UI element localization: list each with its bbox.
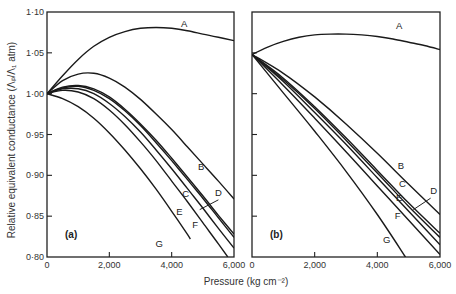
x-tick-label: 4,000	[160, 260, 183, 270]
conductance-chart: 02,0004,0006,0000·800·850·900·951·001·05…	[0, 0, 456, 294]
curve-a	[252, 34, 440, 55]
curve-label-e: E	[176, 206, 182, 217]
x-tick-label: 2,000	[303, 260, 326, 270]
curve-label-c: C	[182, 188, 189, 199]
y-tick-label: 0·85	[26, 211, 44, 221]
y-axis-title: Relative equivalent conductance (Λₚ/Λ₁ a…	[6, 42, 17, 238]
curve-label-c: C	[399, 178, 406, 189]
x-tick-label: 6,000	[429, 260, 452, 270]
panel-label-b: (b)	[270, 229, 283, 240]
curve-label-b: B	[198, 161, 204, 172]
x-axis-title: Pressure (kg cm⁻²)	[204, 276, 288, 287]
x-tick-label: 0	[44, 260, 49, 270]
panel-label-a: (a)	[65, 229, 77, 240]
curve-a	[47, 28, 234, 94]
plot-frame	[47, 12, 234, 257]
x-tick-label: 2,000	[98, 260, 121, 270]
x-tick-label: 6,000	[223, 260, 246, 270]
y-tick-label: 1·10	[26, 7, 44, 17]
curve-label-d: D	[215, 187, 222, 198]
curve-label-e: E	[396, 192, 402, 203]
panel-b-plot: 02,0004,0006,000ABCDEFG(b)	[249, 12, 451, 270]
curve-label-d: D	[430, 185, 437, 196]
y-tick-label: 1·00	[26, 89, 44, 99]
curve-d	[47, 86, 234, 237]
y-tick-label: 0·90	[26, 170, 44, 180]
panel-a-plot: 02,0004,0006,0000·800·850·900·951·001·05…	[26, 7, 245, 270]
x-tick-label: 4,000	[366, 260, 389, 270]
y-tick-label: 1·05	[26, 48, 44, 58]
curve-label-g: G	[156, 238, 163, 249]
d-leader-line	[200, 200, 219, 210]
curve-label-f: F	[395, 210, 401, 221]
curve-f	[252, 55, 440, 255]
curve-label-g: G	[383, 234, 390, 245]
plot-frame	[252, 12, 440, 257]
curve-label-b: B	[398, 160, 404, 171]
x-tick-label: 0	[249, 260, 254, 270]
curve-label-a: A	[181, 18, 188, 29]
curve-g	[252, 55, 406, 258]
curve-label-f: F	[192, 219, 198, 230]
curve-label-a: A	[396, 20, 403, 31]
y-tick-label: 0·80	[26, 252, 44, 262]
y-tick-label: 0·95	[26, 130, 44, 140]
